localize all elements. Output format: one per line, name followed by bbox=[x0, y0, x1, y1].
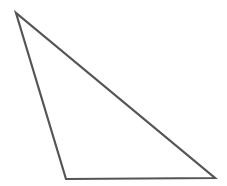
diagram-canvas bbox=[0, 0, 227, 186]
triangle-diagram bbox=[0, 0, 227, 186]
triangle-shape bbox=[16, 13, 215, 179]
